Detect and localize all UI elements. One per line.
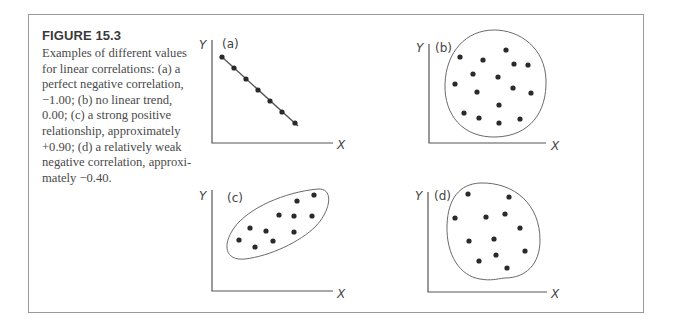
data-point xyxy=(291,213,296,218)
data-point xyxy=(493,252,498,257)
data-point xyxy=(247,225,252,230)
y-axis-label: Y xyxy=(199,189,208,203)
data-point xyxy=(510,85,515,90)
data-point xyxy=(528,90,533,95)
data-point xyxy=(525,62,530,67)
data-point xyxy=(255,87,260,92)
data-point xyxy=(504,265,509,270)
panel-label: (a) xyxy=(222,37,239,51)
data-point xyxy=(496,120,501,125)
data-point xyxy=(294,198,299,203)
data-point xyxy=(219,54,224,59)
data-point xyxy=(270,238,275,243)
data-point xyxy=(457,54,462,59)
y-axis-label: Y xyxy=(199,38,208,52)
data-point xyxy=(279,109,284,114)
data-point xyxy=(522,248,527,253)
data-point xyxy=(311,192,316,197)
data-point xyxy=(276,212,281,217)
data-point xyxy=(465,191,470,196)
data-point xyxy=(517,116,522,121)
x-axis-label: X xyxy=(550,139,560,153)
data-point xyxy=(267,98,272,103)
x-axis-label: X xyxy=(336,287,346,301)
data-point xyxy=(517,225,522,230)
data-point xyxy=(309,213,314,218)
data-point xyxy=(292,120,297,125)
data-point xyxy=(483,214,488,219)
data-point xyxy=(243,76,248,81)
panel-label: (d) xyxy=(434,189,451,203)
y-axis-label: Y xyxy=(415,189,424,203)
data-point xyxy=(502,211,507,216)
axes xyxy=(212,40,333,143)
y-axis-label: Y xyxy=(416,41,425,55)
data-point xyxy=(466,238,471,243)
scatter-boundary xyxy=(445,30,546,137)
data-point xyxy=(476,258,481,263)
data-point xyxy=(496,102,501,107)
panel-label: (b) xyxy=(435,41,452,55)
data-point xyxy=(495,74,500,79)
x-axis-label: X xyxy=(550,287,560,301)
data-point xyxy=(474,89,479,94)
data-point xyxy=(252,244,257,249)
panel-a: (a)YX xyxy=(199,37,346,152)
panel-label: (c) xyxy=(227,191,243,205)
scatterplot-panels: (a)YX(b)YX(c)YX(d)YX xyxy=(0,0,674,327)
data-point xyxy=(511,61,516,66)
data-point xyxy=(480,57,485,62)
panel-b: (b)YX xyxy=(416,30,560,153)
data-point xyxy=(506,194,511,199)
data-point xyxy=(470,71,475,76)
data-point xyxy=(263,228,268,233)
panel-c: (c)YX xyxy=(199,189,346,301)
data-point xyxy=(291,229,296,234)
data-point xyxy=(452,215,457,220)
data-point xyxy=(452,81,457,86)
data-point xyxy=(461,110,466,115)
x-axis-label: X xyxy=(336,138,346,152)
data-point xyxy=(231,65,236,70)
data-point xyxy=(476,115,481,120)
panel-d: (d)YX xyxy=(415,183,560,301)
axes xyxy=(428,192,547,292)
data-point xyxy=(491,236,496,241)
scatter-boundary xyxy=(447,183,540,280)
data-point xyxy=(236,237,241,242)
data-point xyxy=(503,47,508,52)
